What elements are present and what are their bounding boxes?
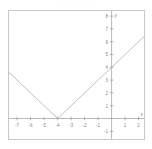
y-tick-label: 2 [106, 91, 109, 96]
y-tick-label: -1 [104, 129, 109, 134]
clipped-header-text: · · · · · [0, 0, 152, 8]
x-axis-label: x [140, 111, 144, 117]
x-tick-label: -1 [96, 123, 101, 128]
x-tick-label: -3 [69, 123, 74, 128]
y-tick-label: 7 [106, 27, 109, 32]
x-tick-label: -5 [42, 123, 47, 128]
x-tick-label: -7 [15, 123, 20, 128]
data-series-group [9, 37, 144, 119]
x-tick-label: -2 [83, 123, 88, 128]
y-tick-label: 3 [106, 78, 109, 83]
y-tick-label: 5 [106, 52, 109, 57]
x-axis-tick-labels: -7-6-5-4-3-2-112 [15, 123, 140, 128]
y-axis-label: y [114, 12, 118, 18]
y-tick-label: 8 [106, 14, 109, 19]
y-tick-label: 4 [106, 65, 109, 70]
x-tick-label: -4 [56, 123, 61, 128]
plot-canvas: -7-6-5-4-3-2-112 -112345678 x y [9, 11, 144, 139]
x-tick-label: -6 [29, 123, 34, 128]
y-tick-label: 6 [106, 40, 109, 45]
y-tick-label: 1 [106, 104, 109, 109]
chart-screenshot: · · · · · -7-6-5-4-3-2-112 -112345678 x … [0, 0, 152, 149]
x-tick-label: 2 [137, 123, 140, 128]
series-line [9, 37, 144, 119]
plot-frame: -7-6-5-4-3-2-112 -112345678 x y [8, 10, 145, 140]
x-tick-label: 1 [124, 123, 127, 128]
axes-group [9, 11, 144, 139]
